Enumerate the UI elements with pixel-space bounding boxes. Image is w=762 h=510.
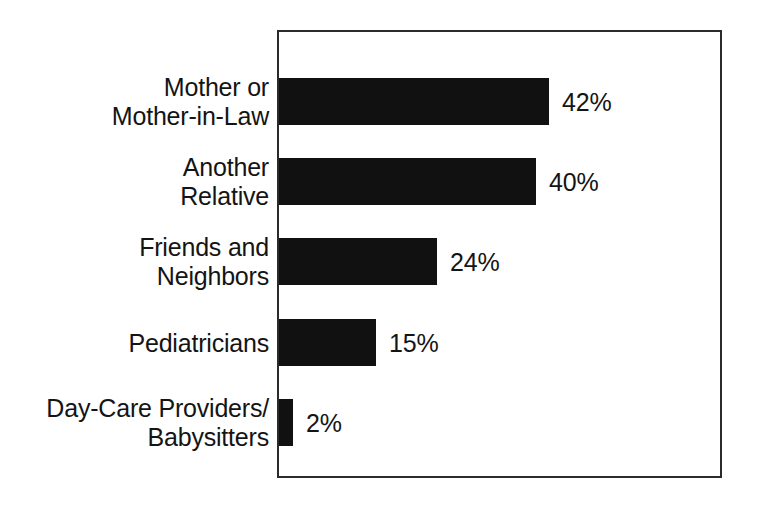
bar-value-label: 15% [389,328,438,357]
bar-mark [279,158,536,205]
bar-mark [279,238,437,285]
category-label: Another Relative [180,153,269,211]
category-label: Friends and Neighbors [139,233,269,291]
category-label: Mother or Mother-in-Law [112,73,269,131]
bar-value-label: 24% [450,247,499,276]
bar-row: Pediatricians 15% [0,319,762,366]
bar-mark [279,319,376,366]
bar-row: Day-Care Providers/ Babysitters 2% [0,399,762,446]
bar-value-label: 42% [562,87,611,116]
bar-row: Friends and Neighbors 24% [0,238,762,285]
category-label: Pediatricians [128,328,269,357]
category-label: Day-Care Providers/ Babysitters [46,394,269,452]
bar-row: Mother or Mother-in-Law 42% [0,78,762,125]
bar-mark [279,78,549,125]
bar-row: Another Relative 40% [0,158,762,205]
horizontal-bar-chart: Mother or Mother-in-Law 42% Another Rela… [0,0,762,510]
bar-value-label: 40% [549,167,598,196]
bar-value-label: 2% [306,408,342,437]
bar-mark [279,399,293,446]
